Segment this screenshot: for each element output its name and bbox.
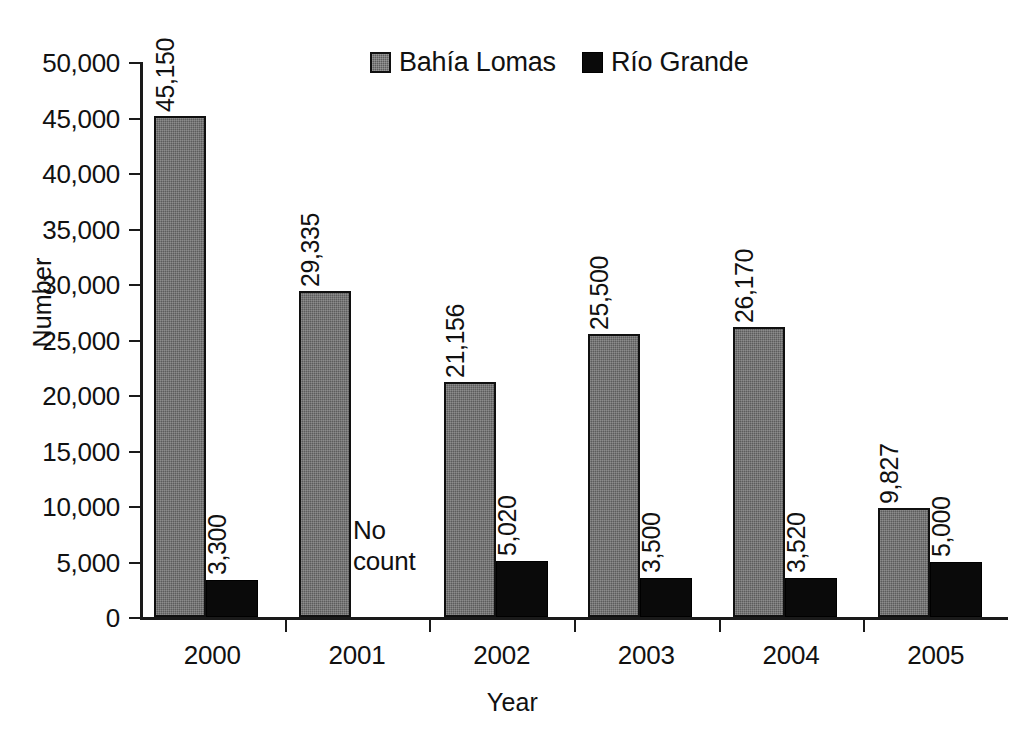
bar-value-label: 29,335 [296,213,325,287]
y-axis-tick: 5,000 [129,562,140,564]
bar: 45,150 [154,116,206,617]
bar-value-label: 26,170 [730,248,759,322]
y-axis-tick: 50,000 [129,62,140,64]
y-axis-tick: 20,000 [129,395,140,397]
x-axis-tick [863,620,865,632]
x-axis-title: Year [0,688,1025,717]
y-axis-tick-label: 35,000 [42,215,120,246]
y-axis-tick-label: 15,000 [42,437,120,468]
bar-value-label: 9,827 [875,443,904,504]
x-axis-category-label: 2002 [429,640,574,671]
y-axis-tick: 45,000 [129,118,140,120]
bar-value-label: 3,300 [203,515,232,576]
x-axis-tick [719,620,721,632]
y-axis-tick-label: 20,000 [42,381,120,412]
bar-value-label: 25,500 [585,256,614,330]
x-axis-category-label: 2005 [863,640,1008,671]
bar: 5,000 [930,562,982,618]
bar: 5,020 [496,561,548,617]
bar: 9,827 [878,508,930,617]
bar: 21,156 [444,382,496,617]
bar-value-label: 3,500 [637,513,666,574]
bar: 3,500 [640,578,692,617]
x-axis-tick [429,620,431,632]
x-axis-tick [285,620,287,632]
y-axis-tick-label: 10,000 [42,492,120,523]
y-axis-tick-label: 5,000 [56,548,120,579]
y-axis-line [140,62,143,620]
y-axis-tick: 25,000 [129,340,140,342]
bar: 3,520 [785,578,837,617]
bar-value-label: 3,520 [782,512,811,573]
y-axis-tick: 35,000 [129,229,140,231]
bar: 3,300 [206,580,258,617]
bar: 25,500 [588,334,640,617]
bar-value-label: 21,156 [441,304,470,378]
bar-chart: Number Year Bahía Lomas Río Grande 05,00… [0,0,1025,737]
bar-value-label: 45,150 [151,38,180,112]
x-axis-tick [574,620,576,632]
plot-area: 05,00010,00015,00020,00025,00030,00035,0… [140,62,1008,619]
y-axis-tick: 10,000 [129,506,140,508]
y-axis-title: Number [28,223,57,383]
y-axis-tick-label: 30,000 [42,270,120,301]
no-count-annotation: No count [353,515,416,576]
y-axis-tick-label: 0 [106,603,120,634]
bar-value-label: 5,000 [927,496,956,557]
bar: 26,170 [733,327,785,617]
x-axis-category-label: 2003 [574,640,719,671]
x-axis-category-label: 2000 [140,640,285,671]
y-axis-tick: 0 [129,617,140,619]
bar-value-label: 5,020 [493,496,522,557]
y-axis-tick: 15,000 [129,451,140,453]
y-axis-tick-label: 40,000 [42,159,120,190]
y-axis-tick: 30,000 [129,284,140,286]
x-axis-category-label: 2001 [285,640,430,671]
y-axis-tick-label: 25,000 [42,326,120,357]
x-axis-category-label: 2004 [719,640,864,671]
y-axis-tick-label: 50,000 [42,48,120,79]
y-axis-tick-label: 45,000 [42,104,120,135]
bar: 29,335 [299,291,351,617]
y-axis-tick: 40,000 [129,173,140,175]
